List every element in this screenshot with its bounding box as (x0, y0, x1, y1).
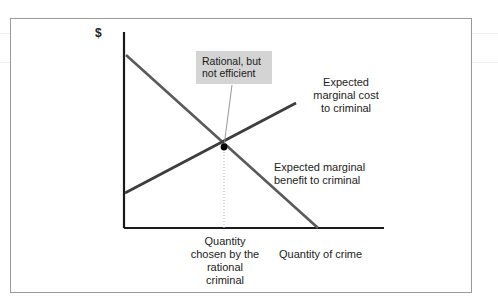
expected-marginal-cost-line (125, 103, 296, 193)
expected-marginal-benefit-label: Expected marginal benefit to criminal (274, 161, 414, 187)
expected-marginal-cost-label: Expected marginal cost to criminal (297, 76, 395, 115)
figure-page: $ Rational, but not efficient Expected m… (0, 0, 498, 307)
callout-line-2: not efficient (202, 67, 267, 79)
quantity-chosen-note: Quantity chosen by the rational criminal (170, 235, 280, 287)
y-axis-label: $ (95, 27, 102, 40)
callout-line-1: Rational, but (202, 55, 267, 67)
callout-rational-not-efficient: Rational, but not efficient (196, 51, 272, 84)
x-axis-label: Quantity of crime (279, 248, 399, 261)
equilibrium-point-marker (221, 144, 228, 151)
